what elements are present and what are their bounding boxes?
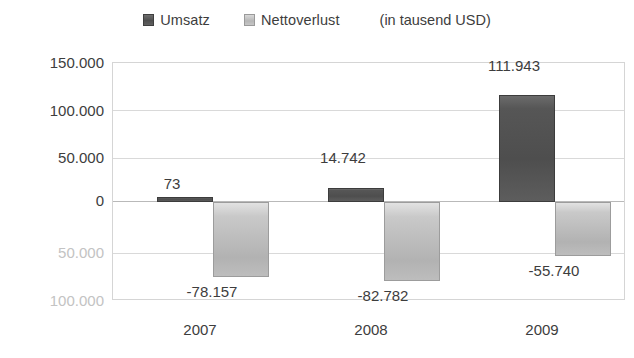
bar-nettoverlust-2008 — [384, 202, 440, 281]
data-label-umsatz-2008: 14.742 — [299, 150, 387, 166]
bar-umsatz-2009 — [499, 95, 555, 202]
dark-gray-square-icon — [143, 14, 154, 26]
y-tick-label-0: 0 — [12, 193, 104, 208]
gridline-minus-50000 — [113, 253, 624, 254]
bar-chart: Umsatz Nettoverlust (in tausend USD) 150… — [0, 0, 634, 358]
legend-unit-note: (in tausend USD) — [380, 12, 491, 28]
bar-nettoverlust-2007 — [213, 202, 269, 277]
data-label-umsatz-2007: 73 — [128, 176, 216, 192]
bar-umsatz-2007 — [157, 197, 213, 202]
y-tick-label-minus-100000: 100.000 — [12, 293, 104, 308]
y-tick-label-minus-50000: 50.000 — [12, 245, 104, 260]
legend-label-nettoverlust: Nettoverlust — [261, 12, 340, 28]
data-label-umsatz-2009: 111.943 — [470, 58, 558, 74]
y-tick-label-100000: 100.000 — [12, 103, 104, 118]
x-tick-label-2009: 2009 — [500, 322, 584, 338]
data-label-nettoverlust-2009: -55.740 — [510, 263, 598, 279]
chart-legend: Umsatz Nettoverlust (in tausend USD) — [0, 12, 634, 28]
x-tick-label-2007: 2007 — [158, 322, 242, 338]
bar-nettoverlust-2009 — [555, 202, 611, 256]
legend-entry-umsatz: Umsatz — [143, 12, 210, 28]
x-tick-label-2008: 2008 — [329, 322, 413, 338]
light-gray-square-icon — [244, 14, 255, 26]
data-label-nettoverlust-2007: -78.157 — [168, 284, 256, 300]
y-tick-label-50000: 50.000 — [12, 150, 104, 165]
legend-label-umsatz: Umsatz — [160, 12, 210, 28]
y-tick-label-150000: 150.000 — [12, 55, 104, 70]
legend-entry-nettoverlust: Nettoverlust — [244, 12, 340, 28]
data-label-nettoverlust-2008: -82.782 — [339, 288, 427, 304]
bar-umsatz-2008 — [328, 188, 384, 202]
